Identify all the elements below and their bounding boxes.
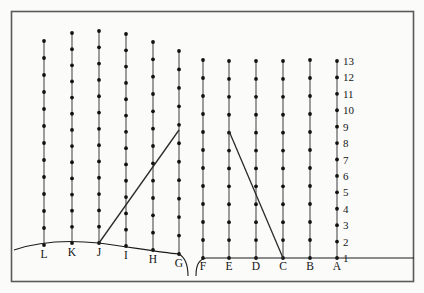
column-dot-K-10	[70, 96, 74, 100]
column-dot-I-4	[124, 195, 128, 199]
column-dot-B-4	[308, 202, 312, 206]
column-dot-D-9	[254, 113, 258, 117]
column-dot-A-6	[335, 174, 339, 178]
column-dot-K-14	[70, 31, 74, 35]
column-dot-E-10	[227, 95, 231, 99]
column-dot-A-10	[335, 108, 339, 112]
column-dot-G-7	[177, 141, 181, 145]
column-dot-H-7	[151, 144, 155, 148]
column-dot-G-2	[177, 234, 181, 238]
column-dot-K-7	[70, 144, 74, 148]
column-dot-H-10	[151, 92, 155, 96]
column-dot-H-13	[151, 40, 155, 44]
column-dot-L-10	[42, 90, 46, 94]
column-dot-I-11	[124, 81, 128, 85]
column-dot-B-10	[308, 94, 312, 98]
column-dot-J-10	[97, 94, 101, 98]
column-dot-I-6	[124, 163, 128, 167]
column-dot-B-8	[308, 130, 312, 134]
station-label-D: D	[252, 260, 260, 272]
column-dot-I-5	[124, 179, 128, 183]
column-dot-D-11	[254, 77, 258, 81]
column-dot-C-3	[281, 220, 285, 224]
column-dot-G-9	[177, 104, 181, 108]
column-dot-F-11	[201, 76, 205, 80]
column-dot-E-3	[227, 220, 231, 224]
column-dot-I-8	[124, 130, 128, 134]
y-tick-13: 13	[343, 55, 355, 67]
column-dot-D-6	[254, 167, 258, 171]
column-dot-J-7	[97, 143, 101, 147]
column-dot-G-12	[177, 49, 181, 53]
column-dot-I-10	[124, 97, 128, 101]
column-dot-E-2	[227, 238, 231, 242]
y-tick-12: 12	[343, 71, 354, 83]
column-dot-L-13	[42, 39, 46, 43]
column-dot-G-3	[177, 215, 181, 219]
column-dot-J-8	[97, 127, 101, 131]
column-dot-L-3	[42, 209, 46, 213]
column-dot-J-12	[97, 62, 101, 66]
column-dot-F-3	[201, 220, 205, 224]
column-dot-C-12	[281, 59, 285, 63]
column-dot-J-4	[97, 192, 101, 196]
column-dot-B-6	[308, 166, 312, 170]
column-dot-G-4	[177, 197, 181, 201]
station-label-J: J	[97, 246, 102, 258]
column-dot-I-2	[124, 228, 128, 232]
column-dot-G-10	[177, 86, 181, 90]
station-label-B: B	[306, 260, 314, 272]
y-tick-3: 3	[343, 219, 349, 231]
y-tick-8: 8	[343, 137, 349, 149]
column-dot-A-7	[335, 158, 339, 162]
column-dot-C-7	[281, 149, 285, 153]
column-dot-J-3	[97, 208, 101, 212]
column-dot-E-6	[227, 167, 231, 171]
column-dot-H-4	[151, 196, 155, 200]
column-dot-B-11	[308, 76, 312, 80]
column-dot-J-2	[97, 225, 101, 229]
column-dot-F-6	[201, 166, 205, 170]
column-dot-C-2	[281, 238, 285, 242]
column-dot-K-5	[70, 176, 74, 180]
column-dot-A-4	[335, 207, 339, 211]
column-dot-F-8	[201, 130, 205, 134]
station-label-E: E	[225, 260, 232, 272]
y-tick-10: 10	[343, 104, 355, 116]
column-dot-A-3	[335, 223, 339, 227]
column-dot-G-6	[177, 160, 181, 164]
column-dot-E-12	[227, 59, 231, 63]
column-dot-J-5	[97, 176, 101, 180]
column-dot-D-4	[254, 202, 258, 206]
column-dot-H-5	[151, 179, 155, 183]
column-dot-J-13	[97, 45, 101, 49]
column-dot-I-7	[124, 146, 128, 150]
column-dot-E-5	[227, 184, 231, 188]
column-dot-H-9	[151, 109, 155, 113]
station-label-K: K	[68, 246, 77, 258]
column-dot-L-9	[42, 107, 46, 111]
column-dot-E-9	[227, 113, 231, 117]
figure-canvas: 12345678910111213 LKJIHGFEDCBA	[0, 0, 424, 293]
column-dot-A-5	[335, 190, 339, 194]
column-dot-D-7	[254, 149, 258, 153]
diagram-svg: 12345678910111213 LKJIHGFEDCBA	[0, 0, 424, 293]
column-dot-D-3	[254, 220, 258, 224]
column-dot-J-9	[97, 111, 101, 115]
column-dot-C-10	[281, 95, 285, 99]
column-dot-E-7	[227, 149, 231, 153]
column-dot-B-5	[308, 184, 312, 188]
column-dot-K-3	[70, 209, 74, 213]
column-dot-J-6	[97, 160, 101, 164]
column-dot-F-9	[201, 112, 205, 116]
column-dot-A-8	[335, 141, 339, 145]
column-dot-C-9	[281, 113, 285, 117]
station-label-A: A	[333, 260, 342, 272]
column-dot-H-11	[151, 75, 155, 79]
column-dot-A-2	[335, 240, 339, 244]
column-dot-H-2	[151, 231, 155, 235]
column-dot-L-5	[42, 175, 46, 179]
station-label-I: I	[124, 249, 128, 261]
column-dot-K-9	[70, 112, 74, 116]
column-dot-L-4	[42, 192, 46, 196]
